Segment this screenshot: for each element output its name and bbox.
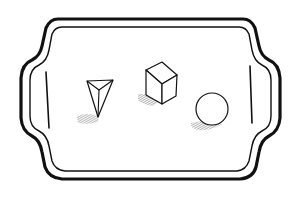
right-handle-slot — [250, 66, 252, 123]
cube-icon — [138, 62, 177, 106]
pyramid-icon — [77, 80, 113, 124]
left-handle-slot — [46, 72, 49, 128]
tray-illustration — [0, 0, 301, 197]
sphere-icon — [191, 93, 228, 130]
